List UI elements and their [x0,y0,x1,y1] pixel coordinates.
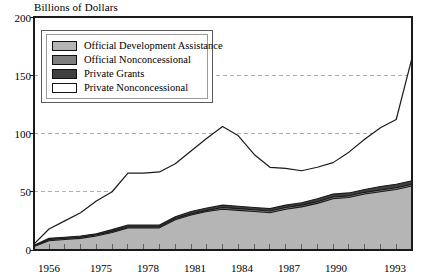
chart-container: Billions of Dollars 200 150 100 50 0 195… [0,0,421,279]
legend-swatch-private-grants [52,69,77,79]
x-tick-1978: 1978 [137,263,159,274]
x-tick-1956: 1956 [38,263,60,274]
legend-label-official-nonconcessional: Official Nonconcessional [84,54,191,65]
legend-label-private-grants: Private Grants [84,68,144,79]
legend-swatch-private-nonconcessional [52,83,77,93]
legend-label-private-nonconcessional: Private Nonconcessional [84,82,188,93]
x-tick-1987: 1987 [278,263,300,274]
x-tick-1984: 1984 [231,263,253,274]
legend-item-private-nonconcessional: Private Nonconcessional [52,81,202,94]
legend-inner-frame: Official Development Assistance Official… [46,34,208,99]
x-tick-1981: 1981 [184,263,206,274]
chart-legend: Official Development Assistance Official… [41,30,213,103]
legend-item-private-grants: Private Grants [52,67,202,80]
x-tick-1975: 1975 [90,263,112,274]
legend-item-official-nonconcessional: Official Nonconcessional [52,53,202,66]
x-tick-1990: 1990 [325,263,347,274]
x-tick-1993: 1993 [384,263,406,274]
legend-item-oda: Official Development Assistance [52,39,202,52]
legend-swatch-official-nonconcessional [52,55,77,65]
legend-label-oda: Official Development Assistance [84,40,223,51]
legend-swatch-oda [52,41,77,51]
